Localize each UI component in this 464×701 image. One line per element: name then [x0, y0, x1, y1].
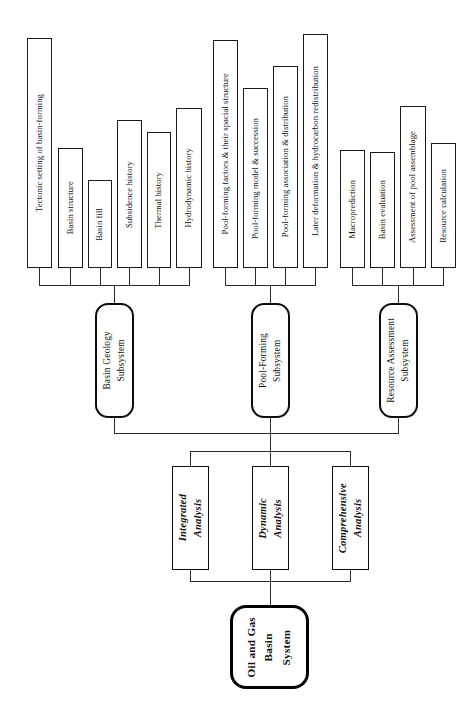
analysis-label: IntegratedAnalysis [175, 494, 206, 541]
leaf-label: Tectonic setting of basin-forming [35, 94, 44, 212]
analysis-box-comprehensive: ComprehensiveAnalysis [332, 466, 369, 570]
connector-stem [270, 570, 271, 581]
connector-stem [129, 268, 130, 285]
leaf-label: Basin evaluation [378, 180, 387, 239]
leaf-box-resource-calculation: Resource calculation [431, 143, 456, 268]
connector-stem [270, 418, 271, 433]
leaf-label: Pool-forming model & succession [251, 118, 260, 239]
leaf-box-later-deformation: Later deformation & hydrocarbon redistri… [303, 34, 328, 268]
connector-stem [398, 418, 399, 433]
connector-stem [350, 451, 351, 466]
connector-stem [350, 570, 351, 581]
subsystem-label: Basin GeologySubsystem [100, 331, 128, 390]
analysis-label: DynamicAnalysis [255, 498, 286, 539]
connector-stem [114, 418, 115, 433]
connector-stem [255, 268, 256, 285]
connector-drop [398, 285, 399, 303]
analysis-box-integrated: IntegratedAnalysis [172, 466, 209, 570]
leaf-box-thermal-history: Thermal history [147, 132, 171, 268]
leaf-label: Pool-forming factors & their spacial str… [221, 73, 230, 234]
leaf-box-subsidence-history: Subsidence history [117, 120, 142, 268]
connector-drop [270, 285, 271, 303]
connector-stem [190, 570, 191, 581]
root-box-oil-and-gas-basin-system: Oil and GasBasinSystem [230, 605, 309, 689]
leaf-label: Thermal history [154, 172, 163, 229]
connector-stem [413, 268, 414, 285]
diagram-canvas: Tectonic setting of basin-forming Basin … [0, 0, 464, 701]
leaf-label: Hydrodynamic history [184, 148, 193, 228]
connector-stem [189, 268, 190, 285]
leaf-box-pool-forming-association: Pool-forming association & distribution [273, 66, 298, 268]
root-label: Oil and GasBasinSystem [243, 617, 295, 678]
analysis-label: ComprehensiveAnalysis [335, 483, 366, 553]
connector-bus [114, 433, 399, 434]
subsystem-label: Resource AssessmentSubsystem [384, 318, 412, 403]
leaf-box-assessment-pool-assemblage: Assessment of pool assemblage [400, 106, 426, 268]
analysis-box-dynamic: DynamicAnalysis [252, 466, 289, 570]
connector-stem [315, 268, 316, 285]
leaf-label: Resource calculation [439, 169, 448, 243]
leaf-box-tectonic-setting: Tectonic setting of basin-forming [27, 38, 52, 268]
leaf-label: Pool-forming association & distribution [281, 96, 290, 237]
connector-stem [159, 268, 160, 285]
leaf-box-basin-evaluation: Basin evaluation [370, 152, 395, 268]
subsystem-label: Pool-FormingSubsystem [256, 333, 284, 388]
leaf-label: Later deformation & hydrocarbon redistri… [311, 66, 320, 236]
connector-stem [285, 268, 286, 285]
connector-stem [270, 451, 271, 466]
leaf-box-macroprediction: Macroprediction [340, 150, 365, 268]
connector-stem [100, 268, 101, 285]
connector-stem [443, 268, 444, 285]
subsystem-box-pool-forming: Pool-FormingSubsystem [251, 303, 290, 418]
leaf-label: Macroprediction [348, 180, 357, 239]
connector-stem [190, 451, 191, 466]
leaf-label: Basin fill [95, 208, 104, 241]
leaf-label: Basin structure [66, 181, 75, 234]
subsystem-box-basin-geology: Basin GeologySubsystem [95, 303, 134, 418]
connector-stem [39, 268, 40, 285]
leaf-label: Assessment of pool assemblage [408, 131, 417, 243]
leaf-label: Subsidence history [125, 161, 134, 228]
connector-stem [225, 268, 226, 285]
leaf-box-basin-structure: Basin structure [58, 148, 83, 268]
leaf-box-pool-forming-factors: Pool-forming factors & their spacial str… [213, 40, 238, 268]
leaf-box-pool-forming-model: Pool-forming model & succession [243, 88, 268, 268]
subsystem-box-resource-assessment: Resource AssessmentSubsystem [379, 303, 418, 418]
connector-stem [382, 268, 383, 285]
connector-drop [270, 581, 271, 605]
connector-stem [352, 268, 353, 285]
leaf-box-basin-fill: Basin fill [88, 180, 112, 268]
leaf-box-hydrodynamic-history: Hydrodynamic history [176, 108, 202, 268]
connector-drop [114, 285, 115, 303]
connector-stem [70, 268, 71, 285]
